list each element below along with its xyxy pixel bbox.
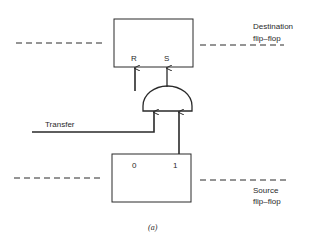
input-s-label: S bbox=[164, 54, 169, 63]
source-box bbox=[112, 154, 191, 202]
input-r-label: R bbox=[131, 54, 137, 63]
output-0-label: 0 bbox=[132, 161, 137, 170]
and-gate bbox=[143, 68, 192, 111]
and-gate-shape bbox=[143, 86, 192, 111]
source-label-line2: flip–flop bbox=[253, 197, 281, 206]
output-1-label: 1 bbox=[173, 161, 178, 170]
figure-caption: (a) bbox=[148, 223, 158, 232]
source-flip-flop: 0 1 Source flip–flop bbox=[14, 154, 288, 206]
destination-label-line2: flip–flop bbox=[253, 34, 281, 43]
flip-flop-transfer-diagram: R S Destination flip–flop Transfer 0 1 S… bbox=[0, 0, 312, 243]
transfer-signal: Transfer bbox=[32, 112, 154, 132]
destination-label-line1: Destination bbox=[253, 22, 293, 31]
destination-box bbox=[114, 19, 193, 67]
transfer-label: Transfer bbox=[45, 120, 75, 129]
source-label-line1: Source bbox=[253, 186, 279, 195]
destination-flip-flop: R S Destination flip–flop bbox=[16, 19, 293, 67]
